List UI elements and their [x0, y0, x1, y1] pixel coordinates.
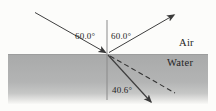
refracted-angle-label: 40.6° — [112, 86, 132, 95]
water-label: Water — [167, 58, 193, 69]
incident-angle-label: 60.0° — [75, 32, 95, 41]
ray-geometry — [0, 0, 216, 111]
air-label: Air — [179, 38, 194, 49]
reflected-angle-label: 60.0° — [111, 32, 131, 41]
refraction-diagram: 60.0° 60.0° 40.6° Air Water — [0, 0, 216, 111]
